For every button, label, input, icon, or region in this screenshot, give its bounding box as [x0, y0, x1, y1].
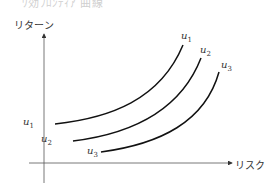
- curve-label-u1-end: u1: [181, 30, 192, 44]
- curve-label-u3-end: u3: [221, 59, 232, 73]
- curve-label-u1-start: u1: [23, 116, 34, 130]
- curve-label-u2-start: u2: [41, 133, 52, 147]
- curve-label-u2-end: u2: [200, 44, 211, 58]
- curve-label-u3-start: u3: [87, 145, 98, 159]
- indifference-curve-diagram: [0, 0, 269, 190]
- curve-u3: [101, 72, 219, 152]
- curve-u1: [55, 45, 183, 124]
